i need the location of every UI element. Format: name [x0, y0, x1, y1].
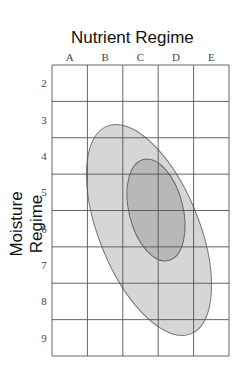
y-tick-3: 3 — [41, 114, 47, 126]
x-tick-E: E — [208, 51, 215, 63]
x-tick-D: D — [172, 51, 180, 63]
y-tick-5: 5 — [41, 186, 47, 198]
x-tick-A: A — [66, 51, 74, 63]
y-tick-4: 4 — [41, 150, 47, 162]
y-tick-9: 9 — [41, 332, 47, 344]
x-tick-B: B — [101, 51, 108, 63]
y-tick-2: 2 — [41, 77, 47, 89]
edatopic-grid: ABCDE 23456789 — [0, 0, 248, 379]
y-tick-labels: 23456789 — [41, 77, 47, 344]
y-tick-6: 6 — [41, 223, 47, 235]
x-tick-C: C — [137, 51, 144, 63]
y-tick-8: 8 — [41, 295, 47, 307]
x-tick-labels: ABCDE — [66, 51, 215, 63]
y-tick-7: 7 — [41, 259, 47, 271]
